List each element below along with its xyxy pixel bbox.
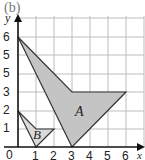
x-tick-6: 6 — [122, 150, 129, 160]
x-tick-3: 3 — [68, 150, 75, 160]
coordinate-grid — [0, 0, 145, 160]
y-tick-4: 5 — [3, 67, 10, 79]
x-axis-label: x — [137, 150, 142, 160]
x-tick-4: 4 — [86, 150, 93, 160]
x-tick-1: 1 — [32, 150, 39, 160]
x-tick-2: 2 — [50, 150, 57, 160]
shape-a-label: A — [75, 105, 84, 119]
y-axis-label: y — [5, 12, 10, 24]
origin-label: 0 — [6, 149, 13, 160]
x-tick-5: 5 — [104, 150, 111, 160]
y-tick-3: 3 — [3, 86, 10, 98]
y-tick-6: 6 — [3, 31, 10, 43]
y-tick-1: 1 — [3, 122, 10, 134]
y-tick-5: 5 — [3, 49, 10, 61]
shape-b-label: B — [33, 128, 41, 141]
y-tick-2: 2 — [3, 104, 10, 116]
